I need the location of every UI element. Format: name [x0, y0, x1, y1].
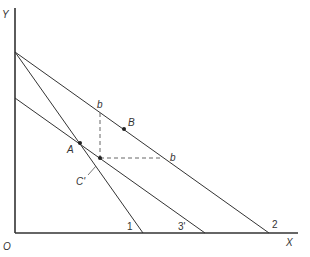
- point-b-label: B: [128, 117, 135, 128]
- point-c: [98, 156, 102, 160]
- line-2-label: 2: [272, 219, 278, 230]
- point-a-label: A: [66, 144, 74, 155]
- budget-line-diagram: Y O X 1 3' 2 A B C' b b: [0, 0, 310, 257]
- point-c-label: C': [76, 176, 86, 187]
- line-1-label: 1: [127, 221, 133, 232]
- point-b: [122, 127, 126, 131]
- b-right-label: b: [170, 152, 176, 163]
- c-leader: [88, 166, 96, 175]
- y-axis-label: Y: [2, 9, 10, 20]
- origin-label: O: [3, 241, 11, 252]
- line-3-label: 3': [178, 221, 186, 232]
- line-3: [15, 98, 205, 233]
- x-axis-label: X: [285, 237, 293, 248]
- point-a: [78, 141, 82, 145]
- b-top-label: b: [97, 99, 103, 110]
- line-2: [15, 52, 269, 233]
